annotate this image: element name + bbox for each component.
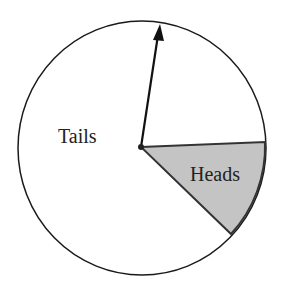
- spinner-diagram: Tails Heads: [0, 0, 283, 292]
- tails-label: Tails: [58, 125, 97, 147]
- spinner-pivot: [138, 144, 144, 150]
- heads-label: Heads: [190, 163, 240, 185]
